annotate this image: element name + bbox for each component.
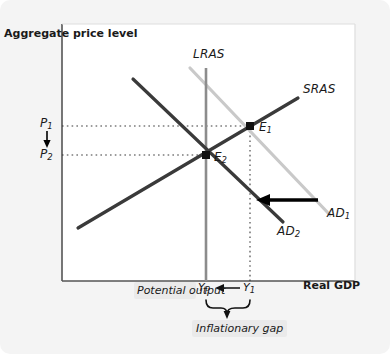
equilibrium-label-e1: E1 [259,120,272,135]
equilibrium-point-e2 [202,151,210,159]
lras-curve-label: LRAS [193,47,225,61]
y-axis-title: Aggregate price level [4,28,60,41]
output-label-y1: Y1 [243,281,255,295]
sras-curve-label: SRAS [303,82,336,96]
equilibrium-label-e2-subscript: 2 [222,155,227,165]
inflationary-gap-brace [206,300,250,319]
price-level-label-p1: P1 [40,116,53,131]
ad2-curve-label-subscript: 2 [295,229,301,239]
equilibrium-point-e1 [246,122,254,130]
ad1-curve-label: AD1 [327,206,350,221]
potential-output-annotation: Potential output [134,282,196,299]
equilibrium-label-e2-text: E [214,150,222,164]
ad1-curve-label-text: AD [327,206,345,220]
price-level-label-p1-subscript: 1 [47,121,52,131]
ad2-curve-label-text: AD [277,224,295,238]
price-level-label-p2-subscript: 2 [47,152,52,162]
figure-card: Aggregate price level Real GDP LRAS SRAS… [0,0,390,354]
ad2-curve-label: AD2 [277,224,300,239]
price-level-label-p2: P2 [40,147,53,162]
equilibrium-label-e2: E2 [214,150,227,165]
price-decrease-arrow [43,131,50,148]
equilibrium-label-e1-subscript: 1 [267,125,272,135]
output-label-y1-subscript: 1 [250,285,255,295]
ad1-curve-label-subscript: 1 [345,211,351,221]
output-label-y1-text: Y [243,281,250,294]
equilibrium-label-e1-text: E [259,120,267,134]
inflationary-gap-annotation: Inflationary gap [192,320,287,337]
x-axis-title: Real GDP [303,279,360,292]
